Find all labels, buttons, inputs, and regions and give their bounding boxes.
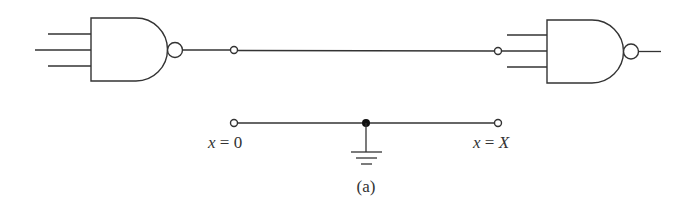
transmission-line-model: x = 0 x = X [207,119,510,164]
right-gate-body [547,20,624,83]
label-x-equals-X: x = X [472,133,510,152]
left-terminal-node [231,47,238,54]
left-gate-body [91,18,168,81]
right-nand-gate [502,20,662,83]
long-interconnect-line [238,51,495,52]
right-gate-inversion-bubble [624,44,639,59]
left-nand-gate [35,18,183,81]
circuit-diagram: x = 0 x = X (a) [0,0,700,214]
label-x-equals-0: x = 0 [207,133,242,152]
figure-caption: (a) [357,177,376,196]
right-terminal-node [495,48,502,55]
line-end-node [495,120,502,127]
ground-icon [351,123,382,164]
left-gate-inversion-bubble [168,43,183,58]
interconnect-wire [183,47,502,55]
line-start-node [231,120,238,127]
